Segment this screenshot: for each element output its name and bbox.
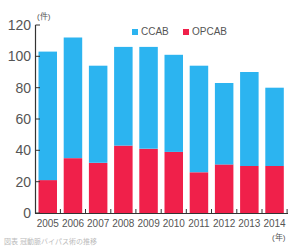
x-tick-label-2008: 2008 [112, 218, 135, 229]
legend: CCAB OPCAB [132, 26, 227, 37]
y-tick-label-20: 20 [15, 174, 31, 190]
bar-ccab-2012 [215, 83, 234, 165]
y-tick-label-40: 40 [15, 142, 31, 158]
y-tick-label-120: 120 [8, 17, 32, 33]
bar-ccab-2011 [190, 66, 209, 173]
y-tick-label-100: 100 [8, 48, 32, 64]
bar-opcab-2005 [39, 180, 58, 213]
x-tick-label-2010: 2010 [163, 218, 186, 229]
x-tick-label-2007: 2007 [87, 218, 110, 229]
x-tick-label-2005: 2005 [37, 218, 60, 229]
x-tick-label-2012: 2012 [213, 218, 236, 229]
bar-opcab-2008 [114, 146, 133, 213]
y-tick-label-80: 80 [15, 80, 31, 96]
bars-group [39, 38, 284, 214]
legend-swatch-ccab [132, 29, 138, 35]
bar-ccab-2010 [165, 55, 184, 152]
y-axis-unit: (件) [37, 11, 51, 21]
bar-opcab-2013 [240, 166, 259, 213]
y-tick-label-60: 60 [15, 111, 31, 127]
bar-ccab-2013 [240, 72, 259, 166]
x-tick-label-2006: 2006 [62, 218, 85, 229]
stacked-bar-chart: 020406080100120 200520062007200820092010… [0, 0, 298, 246]
bar-ccab-2005 [39, 52, 58, 181]
legend-swatch-opcab [183, 29, 189, 35]
x-tick-label-2011: 2011 [188, 218, 210, 229]
x-axis-unit: (年) [272, 232, 286, 242]
x-tick-label-2014: 2014 [263, 218, 286, 229]
bar-opcab-2009 [139, 149, 158, 213]
bar-ccab-2008 [114, 47, 133, 146]
bar-opcab-2014 [265, 166, 284, 213]
bar-opcab-2011 [190, 172, 209, 213]
bar-opcab-2007 [89, 163, 108, 213]
bar-opcab-2012 [215, 164, 234, 213]
legend-label-ccab: CCAB [141, 26, 169, 37]
x-tick-label-2009: 2009 [137, 218, 160, 229]
bar-ccab-2006 [64, 38, 82, 159]
y-tick-label-0: 0 [23, 205, 31, 221]
bar-opcab-2006 [64, 158, 82, 213]
x-tick-label-2013: 2013 [238, 218, 261, 229]
legend-label-opcab: OPCAB [192, 26, 227, 37]
figure-caption: 図表 冠動脈バイパス術の推移 [4, 236, 97, 246]
bar-ccab-2007 [89, 66, 108, 163]
bar-ccab-2009 [139, 47, 158, 149]
bar-opcab-2010 [165, 152, 184, 213]
bar-ccab-2014 [265, 88, 284, 166]
